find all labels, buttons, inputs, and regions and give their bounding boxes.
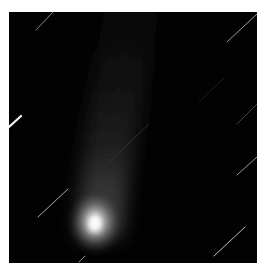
comet-image xyxy=(9,12,257,263)
comet-nucleus xyxy=(90,221,100,231)
comet-photo xyxy=(9,12,257,263)
